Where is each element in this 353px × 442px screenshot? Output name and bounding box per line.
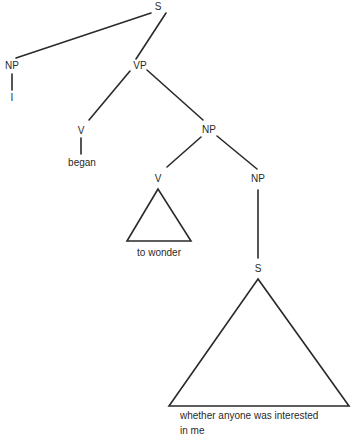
triangle-clause [169, 279, 349, 406]
branch-np-np [217, 136, 257, 169]
triangle-to-wonder [127, 189, 191, 241]
node-vp: VP [133, 60, 146, 71]
leaf-subject: I [11, 92, 14, 103]
leaf-clause-line2: in me [180, 423, 204, 438]
tree-branches [0, 0, 353, 442]
node-v-inner: V [155, 173, 162, 184]
node-s-embedded: S [255, 263, 262, 274]
branch-s-np [16, 13, 151, 58]
branch-vp-np [147, 70, 203, 120]
branch-np-v [167, 137, 201, 167]
node-np-object: NP [202, 124, 216, 135]
branch-s-vp [136, 13, 166, 59]
node-v-main: V [78, 125, 85, 136]
node-s-root: S [155, 1, 162, 12]
leaf-clause-line1: whether anyone was interested [180, 408, 318, 423]
node-np-subject: NP [5, 60, 19, 71]
leaf-inner-verb: to wonder [137, 247, 181, 258]
branch-vp-v [89, 71, 130, 120]
node-np-inner: NP [251, 173, 265, 184]
leaf-main-verb: began [68, 157, 96, 168]
